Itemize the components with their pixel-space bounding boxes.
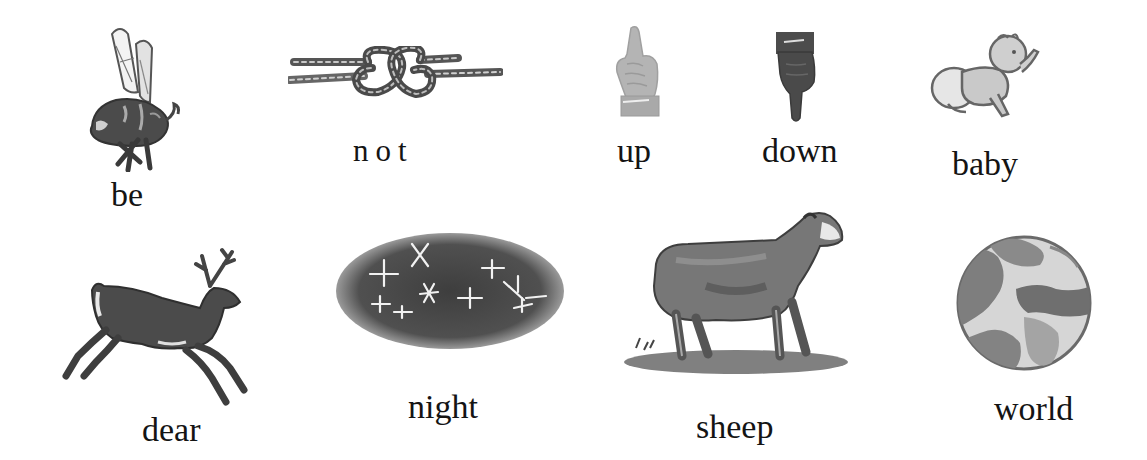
hand-pointing-up-icon [613,24,663,120]
word-label-be: be [111,178,143,212]
globe-icon [954,233,1094,373]
starry-night-sky-icon [332,230,568,352]
knot-icon [288,46,503,102]
leaping-deer-icon [62,246,272,406]
crawling-baby-icon [928,30,1040,126]
word-label-dear: dear [142,413,201,447]
word-label-world: world [994,392,1073,426]
word-label-not: not [353,135,414,166]
word-label-night: night [408,390,478,424]
word-label-down: down [762,134,838,168]
hand-pointing-down-icon [772,28,818,124]
word-label-baby: baby [952,147,1018,181]
word-label-sheep: sheep [696,410,773,444]
bee-icon [80,22,185,172]
sheep-icon [616,206,856,376]
word-label-up: up [617,134,651,168]
